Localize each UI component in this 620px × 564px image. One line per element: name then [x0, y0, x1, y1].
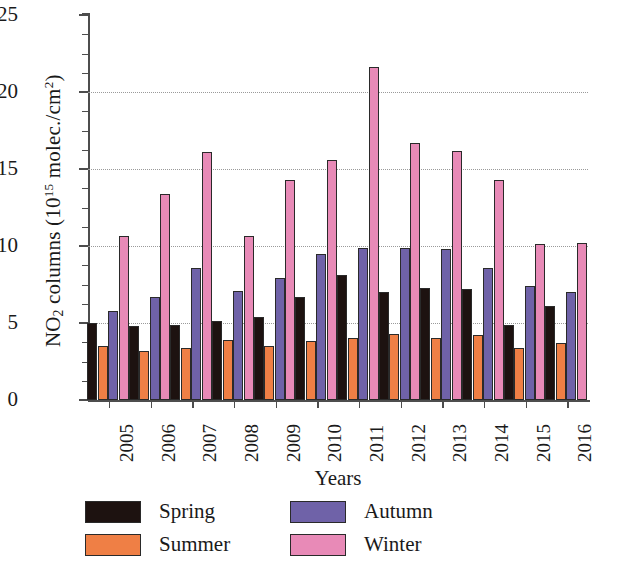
x-axis-tick-label-2014: 2014 — [492, 424, 511, 462]
y-axis-tick-label: 25 — [0, 4, 18, 25]
legend-label-autumn: Autumn — [364, 501, 433, 522]
bar-winter-2009 — [285, 180, 295, 400]
x-axis-tick — [442, 400, 444, 408]
x-axis-tick — [109, 400, 111, 408]
bar-winter-2005 — [119, 236, 129, 400]
legend-label-winter: Winter — [364, 534, 421, 555]
y-axis-minor-tick — [82, 73, 88, 74]
x-axis-tick-label-2012: 2012 — [409, 424, 428, 462]
y-axis-minor-tick — [82, 304, 88, 305]
y-axis-minor-tick — [82, 265, 88, 266]
y-axis-tick-label: 10 — [0, 235, 18, 256]
bar-summer-2011 — [348, 338, 358, 400]
y-axis-minor-tick — [82, 285, 88, 286]
plot-area — [88, 15, 588, 400]
bar-winter-2012 — [410, 143, 420, 400]
legend-item-summer[interactable]: Summer — [85, 534, 290, 556]
bar-autumn-2011 — [358, 248, 368, 400]
x-axis-tick-label-2009: 2009 — [284, 424, 303, 462]
y-axis-minor-tick — [82, 131, 88, 132]
bar-summer-2007 — [181, 348, 191, 400]
bar-winter-2016 — [577, 243, 587, 400]
legend-item-spring[interactable]: Spring — [85, 501, 290, 523]
chart-legend: SpringAutumnSummerWinter — [85, 495, 545, 561]
bar-spring-2009 — [254, 317, 264, 400]
bar-autumn-2007 — [191, 268, 201, 400]
x-axis-title: Years — [88, 466, 588, 491]
y-axis-tick-label: 15 — [0, 158, 18, 179]
bar-winter-2010 — [327, 160, 337, 400]
x-axis-tick-label-2016: 2016 — [575, 424, 594, 462]
bar-spring-2015 — [504, 325, 514, 400]
bar-summer-2012 — [389, 334, 399, 400]
x-axis-tick — [317, 400, 319, 408]
x-axis-tick-label-2013: 2013 — [450, 424, 469, 462]
bar-autumn-2006 — [150, 297, 160, 400]
legend-swatch-winter — [290, 534, 346, 556]
legend-label-summer: Summer — [159, 534, 230, 555]
legend-swatch-autumn — [290, 501, 346, 523]
x-axis-tick-label-2006: 2006 — [159, 424, 178, 462]
y-axis-tick — [79, 14, 88, 16]
x-axis-tick — [401, 400, 403, 408]
bar-autumn-2016 — [566, 292, 576, 400]
bar-autumn-2005 — [108, 311, 118, 400]
bar-spring-2016 — [545, 306, 555, 400]
x-axis-tick — [484, 400, 486, 408]
y-axis-tick-label: 20 — [0, 81, 18, 102]
bar-summer-2014 — [473, 335, 483, 400]
x-axis-tick — [526, 400, 528, 408]
bar-spring-2005 — [87, 323, 97, 400]
x-axis-tick-label-2011: 2011 — [367, 425, 386, 462]
bar-summer-2005 — [98, 346, 108, 400]
x-axis-tick — [192, 400, 194, 408]
x-axis-tick-label-2005: 2005 — [117, 424, 136, 462]
bar-summer-2009 — [264, 346, 274, 400]
bar-autumn-2014 — [483, 268, 493, 400]
bar-summer-2015 — [514, 348, 524, 400]
bar-summer-2006 — [139, 351, 149, 400]
x-axis-line — [88, 400, 590, 402]
bar-winter-2006 — [160, 194, 170, 400]
bar-autumn-2008 — [233, 291, 243, 400]
bar-summer-2013 — [431, 338, 441, 400]
bar-spring-2014 — [462, 289, 472, 400]
bar-autumn-2013 — [441, 249, 451, 400]
x-axis-tick — [567, 400, 569, 408]
bar-winter-2011 — [369, 67, 379, 400]
bar-autumn-2009 — [275, 278, 285, 400]
bar-spring-2013 — [420, 288, 430, 400]
legend-label-spring: Spring — [159, 501, 215, 522]
bar-spring-2008 — [212, 321, 222, 400]
legend-swatch-spring — [85, 501, 141, 523]
y-axis-minor-tick — [82, 188, 88, 189]
x-axis-tick — [359, 400, 361, 408]
y-axis-title-text: NO2 columns (1015 molec./cm2) — [41, 74, 65, 347]
y-axis-minor-tick — [82, 111, 88, 112]
y-axis-minor-tick — [82, 150, 88, 151]
chart-figure: NO2 columns (1015 molec./cm2) 0510152025… — [0, 0, 620, 564]
x-axis-tick-label-2010: 2010 — [325, 424, 344, 462]
bar-winter-2013 — [452, 151, 462, 400]
y-axis-minor-tick — [82, 208, 88, 209]
y-axis-tick — [79, 168, 88, 170]
bar-spring-2012 — [379, 292, 389, 400]
bar-winter-2014 — [494, 180, 504, 400]
x-axis-tick — [151, 400, 153, 408]
bar-winter-2007 — [202, 152, 212, 400]
y-axis-minor-tick — [82, 54, 88, 55]
y-axis-tick-label: 0 — [0, 389, 18, 410]
y-axis-tick — [79, 91, 88, 93]
y-axis-minor-tick — [82, 34, 88, 35]
bar-winter-2008 — [244, 236, 254, 400]
y-axis-tick — [79, 245, 88, 247]
y-axis-title: NO2 columns (1015 molec./cm2) — [41, 11, 66, 411]
legend-item-autumn[interactable]: Autumn — [290, 501, 495, 523]
bar-autumn-2010 — [316, 254, 326, 400]
legend-item-winter[interactable]: Winter — [290, 534, 495, 556]
gridline — [88, 169, 588, 170]
bar-summer-2016 — [556, 343, 566, 400]
bar-summer-2010 — [306, 341, 316, 400]
bar-autumn-2012 — [400, 248, 410, 400]
y-axis-minor-tick — [82, 227, 88, 228]
